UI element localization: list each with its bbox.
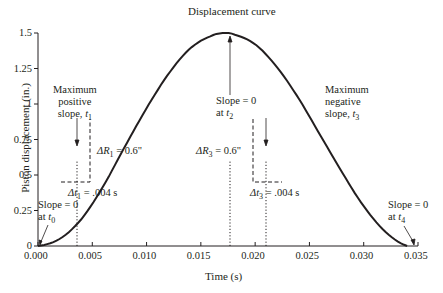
annotation-t1-line3: slope, bbox=[58, 108, 85, 119]
x-tick-label: 0.030 bbox=[350, 250, 374, 262]
annotation-delta-r1: ΔR1 = 0.6" bbox=[97, 145, 142, 161]
annotation-t1-line1: Maximum bbox=[53, 84, 97, 96]
x-ticks bbox=[38, 242, 418, 246]
annotation-t4: Slope = 0 at t4 bbox=[388, 199, 428, 227]
delta-r3-var: ΔR bbox=[196, 145, 209, 156]
delta-r1-value: = 0.6" bbox=[114, 145, 143, 156]
annotation-t4-sub: 4 bbox=[401, 216, 405, 225]
x-tick-label: 0.025 bbox=[295, 250, 319, 262]
annotation-t1-line2: positive bbox=[53, 96, 97, 108]
annotation-t4-line1: Slope = 0 bbox=[388, 199, 428, 211]
y-tick-label: 0.75 bbox=[14, 134, 32, 146]
annotation-delta-r3: ΔR3 = 0.6" bbox=[196, 145, 241, 161]
annotation-t2: Slope = 0 at t2 bbox=[216, 95, 256, 123]
annotation-t2-line1: Slope = 0 bbox=[216, 95, 256, 107]
annotation-t0: Slope = 0 at t0 bbox=[38, 199, 78, 227]
x-tick-label: 0.000 bbox=[24, 250, 48, 262]
x-tick-label: 0.015 bbox=[187, 250, 211, 262]
delta-t1-var: Δt bbox=[68, 187, 77, 198]
annotation-t2-sub: 2 bbox=[229, 112, 233, 121]
annotation-t0-sub: 0 bbox=[51, 216, 55, 225]
y-tick-label: 1.25 bbox=[14, 63, 32, 75]
annotation-t1: Maximum positive slope, t1 bbox=[53, 84, 97, 124]
delta-t3-value: = .004 s bbox=[263, 187, 299, 198]
delta-r3-value: = 0.6" bbox=[213, 145, 242, 156]
x-tick-label: 0.010 bbox=[133, 250, 157, 262]
chart-title: Displacement curve bbox=[188, 5, 276, 17]
y-tick-label: 1 bbox=[27, 98, 32, 110]
delta-box-3 bbox=[253, 119, 282, 182]
x-tick-label: 0.035 bbox=[404, 250, 428, 262]
annotation-t0-at: at bbox=[38, 211, 48, 222]
x-tick-label: 0.005 bbox=[78, 250, 102, 262]
annotation-t4-at: at bbox=[388, 211, 398, 222]
annotation-t3: Maximum negative slope, t3 bbox=[325, 84, 369, 124]
x-tick-label: 0.020 bbox=[241, 250, 265, 262]
delta-r1-var: ΔR bbox=[97, 145, 110, 156]
x-axis-label: Time (s) bbox=[205, 270, 242, 282]
annotation-t3-line3: slope, bbox=[325, 108, 352, 119]
annotation-t1-sub: 1 bbox=[88, 113, 92, 122]
annotation-delta-t3: Δt3 = .004 s bbox=[250, 187, 299, 203]
y-tick-label: 0.25 bbox=[14, 205, 32, 217]
displacement-curve bbox=[38, 33, 407, 246]
y-tick-label: 0.5 bbox=[19, 169, 32, 181]
annotation-t3-line1: Maximum bbox=[325, 84, 369, 96]
delta-box-1 bbox=[61, 119, 90, 182]
guide-lines bbox=[61, 119, 282, 246]
y-tick-label: 1.5 bbox=[19, 27, 32, 39]
annotation-arrows bbox=[39, 36, 415, 245]
annotation-t3-line2: negative bbox=[325, 96, 369, 108]
delta-t1-value: = .004 s bbox=[81, 187, 117, 198]
annotation-t2-at: at bbox=[216, 107, 226, 118]
delta-t3-var: Δt bbox=[250, 187, 259, 198]
annotation-t3-sub: 3 bbox=[355, 113, 359, 122]
annotation-delta-t1: Δt1 = .004 s bbox=[68, 187, 117, 203]
